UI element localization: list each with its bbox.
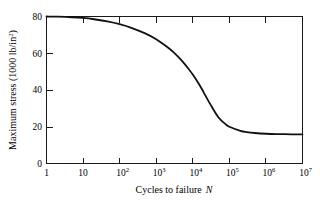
x-tick-label-10: 10 xyxy=(78,168,88,178)
fatigue-sn-chart-figure: 0 20 40 60 80 1 10 102 103 104 105 106 1… xyxy=(0,0,320,203)
y-tick-label-0: 0 xyxy=(37,159,42,169)
y-tick-label-80: 80 xyxy=(33,12,43,22)
chart-canvas: 0 20 40 60 80 1 10 102 103 104 105 106 1… xyxy=(0,0,320,203)
y-axis-title: Maximum stress (1000 lb/in2) xyxy=(7,30,20,150)
y-tick-label-40: 40 xyxy=(33,85,43,95)
x-tick-label-1: 1 xyxy=(44,168,49,178)
y-tick-label-60: 60 xyxy=(33,49,43,59)
y-tick-label-20: 20 xyxy=(33,122,43,132)
